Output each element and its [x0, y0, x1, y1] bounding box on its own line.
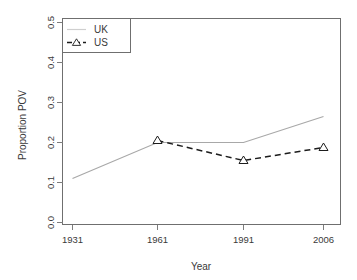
y-axis-tick-labels: 0.5 0.4 0.3 0.2 0.1 0.0 — [45, 16, 56, 229]
y-tick-label: 0.5 — [45, 16, 56, 29]
x-tick-label: 2006 — [313, 234, 334, 245]
y-tick-label: 0.0 — [45, 216, 56, 229]
legend-label-uk: UK — [94, 24, 108, 35]
legend-label-us: US — [94, 37, 108, 48]
series-line-us — [158, 141, 324, 161]
x-tick-label: 1931 — [62, 234, 83, 245]
x-tick-label: 1991 — [233, 234, 254, 245]
data-point-marker — [153, 136, 162, 144]
x-axis-title: Year — [191, 261, 212, 272]
series-line-uk — [73, 117, 324, 179]
line-chart: 0.5 0.4 0.3 0.2 0.1 0.0 Proportion POV 1… — [0, 0, 357, 280]
y-axis-ticks — [57, 23, 63, 223]
y-tick-label: 0.4 — [45, 56, 56, 69]
chart-container: 0.5 0.4 0.3 0.2 0.1 0.0 Proportion POV 1… — [0, 0, 357, 280]
y-tick-label: 0.2 — [45, 136, 56, 149]
x-axis-tick-labels: 1931 1961 1991 2006 — [62, 234, 334, 245]
chart-legend: UK US — [63, 19, 131, 53]
y-tick-label: 0.3 — [45, 96, 56, 109]
x-tick-label: 1961 — [147, 234, 168, 245]
data-point-marker — [319, 143, 328, 151]
y-tick-label: 0.1 — [45, 176, 56, 189]
y-axis-title: Proportion POV — [17, 90, 28, 160]
x-axis-ticks — [73, 225, 324, 231]
